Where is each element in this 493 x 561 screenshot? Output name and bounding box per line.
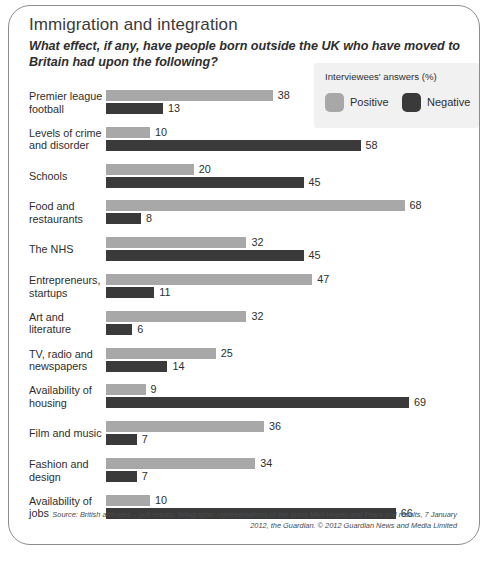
bar-negative (106, 177, 304, 188)
bar-negative (106, 434, 137, 445)
row-label: Food andrestaurants (29, 200, 107, 225)
row-label: Levels of crimeand disorder (29, 127, 107, 152)
bar-negative (106, 140, 361, 151)
row-label: Film and music (29, 427, 107, 440)
row-label: Premier leaguefootball (29, 90, 107, 115)
bar-negative (106, 471, 137, 482)
row-label: Art andliterature (29, 311, 107, 336)
bar-positive (106, 200, 405, 211)
chart-row: Premier leaguefootball3813 (9, 90, 479, 122)
row-label: The NHS (29, 243, 107, 256)
bar-value-positive: 32 (251, 310, 263, 322)
infographic-card: Immigration and integration What effect,… (8, 5, 480, 545)
chart-row: Entrepreneurs,startups4711 (9, 274, 479, 306)
bar-negative (106, 213, 141, 224)
bar-value-positive: 68 (410, 199, 422, 211)
bar-value-negative: 7 (142, 433, 148, 445)
bar-value-negative: 45 (309, 176, 321, 188)
bar-value-positive: 20 (199, 163, 211, 175)
bar-value-positive: 38 (278, 89, 290, 101)
bar-value-negative: 7 (142, 470, 148, 482)
chart-row: Levels of crimeand disorder1058 (9, 127, 479, 159)
bar-chart-plot: Premier leaguefootball3813Levels of crim… (9, 6, 479, 544)
bar-value-negative: 45 (309, 249, 321, 261)
row-label: TV, radio andnewspapers (29, 348, 107, 373)
bar-negative (106, 250, 304, 261)
bar-negative (106, 324, 132, 335)
bar-value-positive: 47 (317, 273, 329, 285)
chart-row: The NHS3245 (9, 237, 479, 269)
bar-positive (106, 237, 246, 248)
bar-positive (106, 384, 146, 395)
chart-row: Film and music367 (9, 421, 479, 453)
bar-value-negative: 58 (366, 139, 378, 151)
bar-positive (106, 164, 194, 175)
bar-negative (106, 287, 154, 298)
chart-row: Fashion anddesign347 (9, 458, 479, 490)
source-note: Source: British attitudes – poll results… (49, 510, 457, 531)
bar-value-positive: 34 (260, 457, 272, 469)
card-inner: Immigration and integration What effect,… (9, 6, 479, 544)
bar-value-positive: 10 (155, 126, 167, 138)
bar-value-positive: 9 (151, 383, 157, 395)
bar-value-negative: 6 (137, 323, 143, 335)
row-label: Fashion anddesign (29, 458, 107, 483)
row-label: Schools (29, 170, 107, 183)
bar-value-positive: 32 (251, 236, 263, 248)
chart-row: Availability ofhousing969 (9, 384, 479, 416)
bar-positive (106, 311, 246, 322)
bar-value-positive: 25 (221, 347, 233, 359)
row-label: Availability ofhousing (29, 384, 107, 409)
bar-negative (106, 397, 409, 408)
bar-value-positive: 10 (155, 494, 167, 506)
bar-positive (106, 90, 273, 101)
chart-row: Food andrestaurants688 (9, 200, 479, 232)
bar-value-negative: 11 (159, 286, 170, 298)
bar-positive (106, 421, 264, 432)
row-label: Entrepreneurs,startups (29, 274, 107, 299)
bar-value-negative: 13 (168, 102, 180, 114)
bar-positive (106, 495, 150, 506)
bar-value-positive: 36 (269, 420, 281, 432)
bar-positive (106, 274, 312, 285)
bar-positive (106, 348, 216, 359)
bar-value-negative: 69 (414, 396, 426, 408)
chart-row: TV, radio andnewspapers2514 (9, 348, 479, 380)
chart-row: Schools2045 (9, 164, 479, 196)
bar-positive (106, 127, 150, 138)
bar-negative (106, 361, 167, 372)
chart-row: Art andliterature326 (9, 311, 479, 343)
bar-value-negative: 8 (146, 212, 152, 224)
bar-negative (106, 103, 163, 114)
bar-value-negative: 14 (172, 360, 184, 372)
bar-positive (106, 458, 255, 469)
